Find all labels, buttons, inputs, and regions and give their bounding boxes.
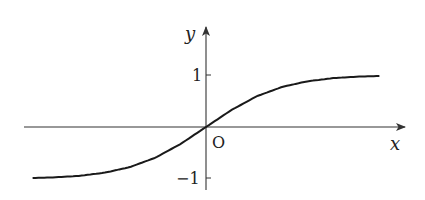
y-tick-label-1: 1	[192, 66, 202, 85]
origin-label: O	[212, 133, 225, 152]
y-tick-label-neg1: −1	[176, 169, 200, 188]
function-graph: y x O 1 −1	[0, 0, 425, 200]
x-axis-label: x	[390, 133, 400, 154]
y-axis-label: y	[184, 23, 196, 44]
